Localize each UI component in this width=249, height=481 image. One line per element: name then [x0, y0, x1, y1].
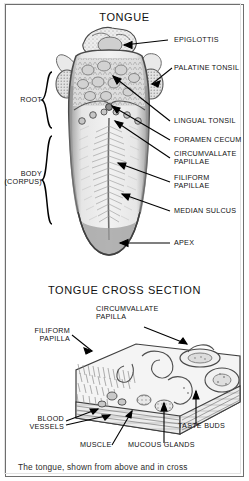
label-mucous-glands: MUCOUS GLANDS — [128, 441, 195, 449]
label-filiform-papilla: FILIFORM PAPILLA — [8, 327, 70, 343]
label-blood-vessels: BLOOD VESSELS — [0, 415, 64, 431]
label-apex: APEX — [174, 239, 194, 247]
figure-page: TONGUE TONGUE CROSS SECTION — [0, 0, 249, 481]
root-body-braces — [28, 60, 58, 240]
label-taste-buds: TASTE BUDS — [178, 422, 225, 430]
label-circumvallate-papillae: CIRCUMVALLATE PAPILLAE — [174, 150, 237, 166]
label-median-sulcus: MEDIAN SULCUS — [174, 207, 236, 215]
label-epiglottis: EPIGLOTTIS — [174, 36, 219, 44]
label-foramen-cecum: FORAMEN CECUM — [174, 136, 242, 144]
label-muscle: MUSCLE — [80, 441, 111, 449]
figure-caption: The tongue, shown from above and in cros… — [18, 462, 235, 473]
label-root: ROOT — [0, 96, 42, 104]
label-palatine-tonsil: PALATINE TONSIL — [174, 64, 239, 72]
label-lingual-tonsil: LINGUAL TONSIL — [174, 117, 236, 125]
label-filiform-papillae: FILIFORM PAPILLAE — [174, 174, 210, 190]
label-circumvallate-papilla: CIRCUMVALLATE PAPILLA — [96, 305, 159, 321]
label-body-corpus: BODY (CORPUS) — [0, 170, 42, 186]
